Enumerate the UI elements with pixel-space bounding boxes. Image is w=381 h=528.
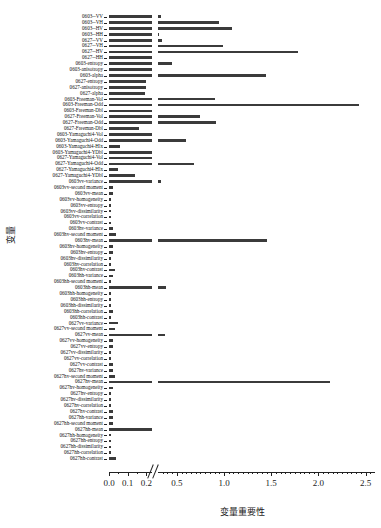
y-tick-mark bbox=[104, 341, 107, 342]
x-minor-tick-mark bbox=[200, 472, 201, 474]
x-minor-tick-mark bbox=[337, 472, 338, 474]
bar-row bbox=[109, 456, 375, 462]
bar bbox=[109, 168, 118, 171]
y-tick-mark bbox=[104, 459, 107, 460]
bar bbox=[109, 127, 139, 130]
bar bbox=[109, 192, 113, 195]
bar bbox=[109, 269, 115, 272]
y-tick-mark bbox=[104, 365, 107, 366]
x-tick-label: 2.5 bbox=[360, 478, 371, 488]
bar bbox=[109, 434, 111, 437]
y-tick-mark bbox=[104, 158, 107, 159]
y-tick-mark bbox=[104, 23, 107, 24]
y-tick-mark bbox=[104, 306, 107, 307]
y-tick-mark bbox=[104, 211, 107, 212]
bar bbox=[109, 56, 152, 59]
y-tick-mark bbox=[104, 447, 107, 448]
x-minor-tick-mark bbox=[300, 472, 301, 474]
bar bbox=[109, 45, 223, 48]
bar bbox=[109, 428, 157, 431]
y-tick-mark bbox=[104, 353, 107, 354]
bar bbox=[109, 210, 111, 213]
bar bbox=[109, 27, 232, 30]
x-axis-title: 变量重要性 bbox=[109, 505, 375, 518]
bar bbox=[109, 216, 111, 219]
y-tick-mark bbox=[104, 111, 107, 112]
x-minor-tick-mark bbox=[304, 472, 305, 474]
y-tick-mark bbox=[104, 418, 107, 419]
y-tick-mark bbox=[104, 265, 107, 266]
y-tick-mark bbox=[104, 382, 107, 383]
x-minor-tick-mark bbox=[328, 472, 329, 474]
bar bbox=[109, 387, 113, 390]
plot-area bbox=[109, 14, 375, 462]
y-tick-mark bbox=[104, 347, 107, 348]
x-tick-mark bbox=[366, 472, 367, 476]
x-tick-mark bbox=[271, 472, 272, 476]
y-tick-mark bbox=[104, 52, 107, 53]
bar bbox=[109, 222, 111, 225]
bar bbox=[109, 133, 152, 136]
x-tick-label: 0.1 bbox=[122, 478, 133, 488]
y-tick-mark bbox=[104, 241, 107, 242]
bar bbox=[109, 263, 111, 266]
x-minor-tick-mark bbox=[309, 472, 310, 474]
bar bbox=[109, 145, 120, 148]
bar bbox=[109, 381, 330, 384]
bar bbox=[109, 351, 111, 354]
bar bbox=[109, 440, 111, 443]
y-tick-mark bbox=[104, 441, 107, 442]
y-tick-mark bbox=[104, 394, 107, 395]
x-minor-tick-mark bbox=[290, 472, 291, 474]
y-tick-mark bbox=[104, 176, 107, 177]
y-tick-mark bbox=[104, 182, 107, 183]
bar bbox=[109, 339, 113, 342]
x-minor-tick-mark bbox=[243, 472, 244, 474]
x-minor-tick-mark bbox=[257, 472, 258, 474]
axis-break-marker bbox=[147, 464, 163, 480]
x-minor-tick-mark bbox=[196, 472, 197, 474]
x-minor-tick-mark bbox=[347, 472, 348, 474]
x-minor-tick-mark bbox=[210, 472, 211, 474]
y-tick-mark bbox=[104, 359, 107, 360]
bar bbox=[109, 204, 111, 207]
x-tick-mark bbox=[128, 472, 129, 476]
y-tick-mark bbox=[104, 400, 107, 401]
y-tick-mark bbox=[104, 29, 107, 30]
x-minor-tick-mark bbox=[370, 472, 371, 474]
x-tick-mark bbox=[177, 472, 178, 476]
y-axis-tick-labels: 0603--VV0603--VH0603--HV0603--HH0627--VV… bbox=[0, 14, 107, 462]
x-minor-tick-mark bbox=[172, 472, 173, 474]
bar bbox=[109, 422, 113, 425]
bar bbox=[109, 92, 145, 95]
y-tick-mark bbox=[104, 270, 107, 271]
y-tick-mark bbox=[104, 294, 107, 295]
y-tick-mark bbox=[104, 46, 107, 47]
y-tick-mark bbox=[104, 335, 107, 336]
y-tick-mark bbox=[104, 206, 107, 207]
x-minor-tick-mark bbox=[281, 472, 282, 474]
y-tick-mark bbox=[104, 288, 107, 289]
x-minor-tick-mark bbox=[167, 472, 168, 474]
bar bbox=[109, 292, 111, 295]
bar bbox=[109, 233, 116, 236]
bar bbox=[109, 398, 111, 401]
bar bbox=[109, 457, 116, 460]
y-tick-mark bbox=[104, 247, 107, 248]
x-minor-tick-mark bbox=[205, 472, 206, 474]
x-tick-label: 0.0 bbox=[103, 478, 114, 488]
bar bbox=[109, 80, 146, 83]
y-tick-mark bbox=[104, 371, 107, 372]
y-tick-mark bbox=[104, 312, 107, 313]
x-tick-mark bbox=[109, 472, 110, 476]
y-tick-mark bbox=[104, 153, 107, 154]
bar bbox=[109, 86, 146, 89]
x-minor-tick-mark bbox=[229, 472, 230, 474]
x-minor-tick-mark bbox=[295, 472, 296, 474]
bar bbox=[109, 275, 113, 278]
y-tick-mark bbox=[104, 259, 107, 260]
bar bbox=[109, 174, 135, 177]
bar bbox=[109, 257, 111, 260]
bar bbox=[109, 416, 113, 419]
variable-importance-chart: 变量 变量重要性 0603--VV0603--VH0603--HV0603--H… bbox=[0, 0, 381, 528]
